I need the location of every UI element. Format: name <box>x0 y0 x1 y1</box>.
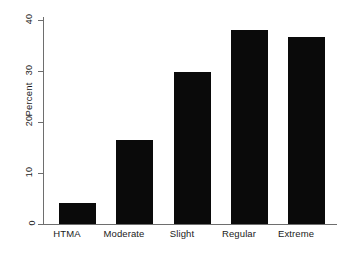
y-tick-label-0: 0 <box>0 218 34 228</box>
y-tick-label-20-text: 20 <box>24 116 34 126</box>
y-tick-label-10: 10 <box>0 167 34 177</box>
y-tick-label-10-text: 10 <box>24 167 34 177</box>
x-tick-label-regular: Regular <box>209 228 269 239</box>
y-tick-label-0-text: 0 <box>26 220 36 225</box>
x-axis-line <box>43 224 337 225</box>
bar-moderate <box>116 140 153 224</box>
x-tick-label-extreme: Extreme <box>266 228 326 239</box>
x-tick-label-slight: Slight <box>152 228 212 239</box>
bar-extreme <box>288 37 325 224</box>
y-tick-mark-20 <box>38 122 43 123</box>
bar-regular <box>231 30 268 224</box>
plot-area <box>44 17 337 224</box>
y-tick-mark-0 <box>38 224 43 225</box>
bar-slight <box>174 72 211 224</box>
y-tick-mark-30 <box>38 71 43 72</box>
y-tick-label-40-text: 40 <box>24 14 34 24</box>
y-tick-mark-10 <box>38 173 43 174</box>
x-tick-label-htma: HTMA <box>37 228 97 239</box>
bar-htma <box>59 203 96 224</box>
y-tick-mark-40 <box>38 20 43 21</box>
y-axis-title: Percent <box>23 82 34 116</box>
y-tick-label-30: 30 <box>0 65 34 75</box>
y-tick-label-20: 20 <box>0 116 34 126</box>
bar-chart-figure: Percent 40 30 20 10 0 HTMA Moderate Slig… <box>0 0 353 253</box>
x-tick-label-moderate: Moderate <box>94 228 154 239</box>
y-tick-label-30-text: 30 <box>24 65 34 75</box>
y-tick-label-40: 40 <box>0 14 34 24</box>
